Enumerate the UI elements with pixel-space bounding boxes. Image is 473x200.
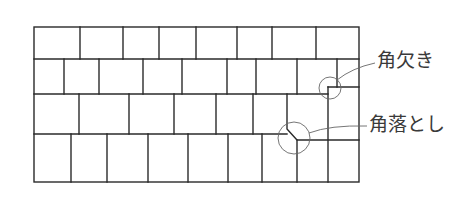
notch-label: 角欠き [377, 51, 434, 70]
tile-row-1 [34, 27, 359, 59]
notch-highlight-circle [319, 77, 341, 99]
notch-leader-line [337, 63, 375, 80]
tile-row-4 [71, 134, 297, 182]
tile-row-2 [64, 59, 359, 94]
tile-layout-diagram [0, 0, 473, 200]
chamfer-leader-line [309, 126, 367, 133]
chamfer-label: 角落とし [369, 115, 445, 134]
tile-row-3 [79, 94, 253, 134]
chamfer-highlight-circle [278, 122, 310, 154]
chamfered-tile-edge [287, 94, 359, 140]
callout-chamfer [278, 122, 367, 154]
